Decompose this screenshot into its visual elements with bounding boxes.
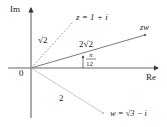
- origin-label: 0: [19, 68, 24, 78]
- im-axis-label: Im: [10, 4, 20, 14]
- complex-plane-diagram: Im Re 0 z = 1 + i √2 zw 2√2 w = √3 − i 2…: [0, 0, 167, 127]
- angle-label-denominator: 12: [86, 60, 94, 68]
- w-label: w = √3 − i: [110, 108, 148, 118]
- z-modulus-label: √2: [38, 35, 47, 45]
- point-w: [102, 112, 104, 114]
- z-label: z = 1 + i: [75, 12, 108, 22]
- vector-z: [31, 22, 73, 68]
- vector-w: [31, 68, 103, 113]
- w-modulus-label: 2: [59, 93, 64, 103]
- angle-label-numerator: π: [89, 51, 93, 59]
- point-zw: [144, 34, 146, 36]
- zw-label: zw: [139, 22, 149, 32]
- re-axis-label: Re: [146, 72, 156, 82]
- zw-modulus-label: 2√2: [79, 39, 93, 49]
